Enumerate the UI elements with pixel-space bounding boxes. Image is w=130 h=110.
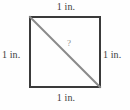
- unknown-value-marker: ?: [63, 38, 75, 48]
- label-right-side: 1 in.: [103, 49, 121, 60]
- label-top-side: 1 in.: [0, 1, 130, 12]
- label-left-side: 1 in.: [2, 49, 20, 60]
- square-outline: [29, 16, 101, 88]
- label-bottom-side: 1 in.: [0, 92, 130, 103]
- geometry-figure: 1 in. 1 in. 1 in. 1 in. ?: [0, 0, 130, 110]
